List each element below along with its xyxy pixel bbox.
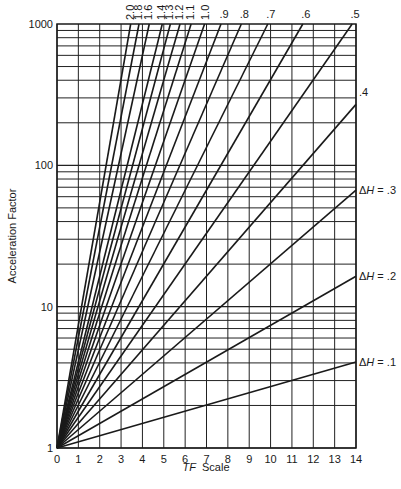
x-tick-label: 2 [97, 453, 103, 465]
x-tick-label: 13 [329, 453, 341, 465]
series-line [57, 24, 221, 448]
series-label: ΔH = .1 [359, 356, 396, 368]
series-line [57, 24, 241, 448]
x-tick-label: 4 [139, 453, 145, 465]
series-label: ΔH = .3 [359, 184, 396, 196]
y-tick-label: 1000 [29, 18, 53, 30]
x-axis-title: TF Scale [182, 461, 229, 473]
x-tick-label: 5 [161, 453, 167, 465]
series-label: 1.4 [155, 5, 167, 20]
y-tick-label: 100 [35, 159, 53, 171]
series-line [57, 24, 191, 448]
series-line [57, 24, 162, 448]
series-label: .9 [219, 8, 228, 20]
x-tick-label: 10 [264, 453, 276, 465]
series-label: 2.0 [124, 5, 136, 20]
x-tick-label: 0 [54, 453, 60, 465]
x-axis-title-italic: TF [182, 461, 197, 473]
series-line [57, 24, 352, 448]
series-label: .8 [240, 8, 249, 20]
series-label: .5 [351, 8, 360, 20]
x-tick-label: 9 [246, 453, 252, 465]
series-label: .4 [359, 86, 368, 98]
acceleration-factor-chart: 01234567891011121314 1101001000 ΔH = .1Δ… [0, 0, 401, 489]
y-axis-ticks: 1101001000 [29, 18, 53, 454]
x-axis-title-rest: Scale [202, 461, 230, 473]
series-label: 1.6 [142, 5, 154, 20]
x-tick-label: 12 [307, 453, 319, 465]
y-axis-title: Acceleration Factor [6, 188, 18, 283]
x-tick-label: 1 [75, 453, 81, 465]
x-tick-label: 11 [286, 453, 297, 465]
y-tick-label: 10 [41, 301, 53, 313]
series-label: .7 [266, 8, 275, 20]
series-label: 1.1 [184, 5, 196, 20]
x-tick-label: 14 [350, 453, 362, 465]
series-label: .6 [301, 8, 310, 20]
y-tick-label: 1 [47, 442, 53, 454]
series-label: ΔH = .2 [359, 270, 396, 282]
series-line [57, 24, 149, 448]
series-line [57, 24, 139, 448]
x-tick-label: 3 [118, 453, 124, 465]
series-line [57, 24, 170, 448]
series-label: 1.0 [199, 5, 211, 20]
